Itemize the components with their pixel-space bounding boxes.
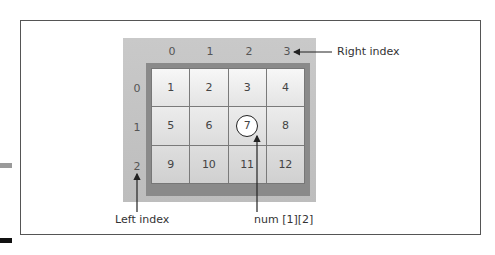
- left-index-label: Left index: [115, 213, 169, 226]
- right-index-label: Right index: [337, 45, 400, 58]
- element-ref-label: num [1][2]: [254, 213, 313, 226]
- annotation-arrows: [0, 0, 495, 255]
